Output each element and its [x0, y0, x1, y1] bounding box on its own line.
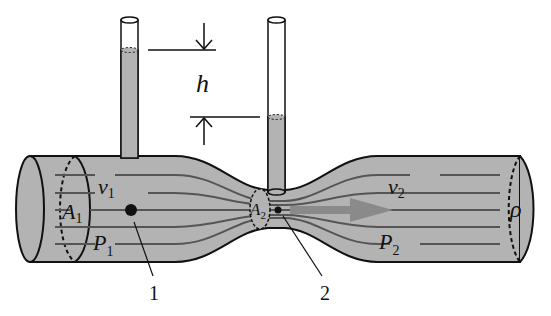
- point-2-marker: [275, 207, 282, 214]
- venturi-diagram: h 1 2 v1 A1 P1 A2 v2 P2 ρ: [0, 0, 551, 316]
- left-end-cap: [16, 156, 44, 262]
- point-1-label: 1: [149, 282, 159, 304]
- point-1-marker: [125, 204, 137, 216]
- point-2-label: 2: [320, 282, 330, 304]
- label-rho: ρ: [509, 196, 522, 222]
- label-h: h: [196, 69, 209, 98]
